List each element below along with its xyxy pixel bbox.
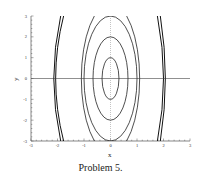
y-tick-label: 2 xyxy=(25,34,27,39)
phase-portrait-plot: -3-2-101233210-1-2-3 x y xyxy=(0,0,201,177)
y-tick-label: 1 xyxy=(25,55,27,60)
x-tick-label: -2 xyxy=(56,143,60,148)
axes xyxy=(31,16,190,141)
y-tick-label: 0 xyxy=(25,76,28,81)
x-tick-label: -3 xyxy=(29,143,33,148)
x-tick-label: -1 xyxy=(82,143,86,148)
x-tick-label: 0 xyxy=(109,143,112,148)
tick-labels: -3-2-101233210-1-2-3 xyxy=(23,14,192,149)
y-tick-label: -2 xyxy=(23,118,27,123)
x-tick-label: 1 xyxy=(136,143,138,148)
figure-caption: Problem 5. xyxy=(0,162,201,173)
y-tick-label: 3 xyxy=(25,14,28,19)
y-tick-label: -3 xyxy=(23,139,27,144)
x-tick-label: 2 xyxy=(162,143,164,148)
y-tick-label: -1 xyxy=(23,97,27,102)
x-axis-label: x xyxy=(108,151,112,159)
y-axis-label: y xyxy=(12,77,20,81)
x-tick-label: 3 xyxy=(189,143,192,148)
